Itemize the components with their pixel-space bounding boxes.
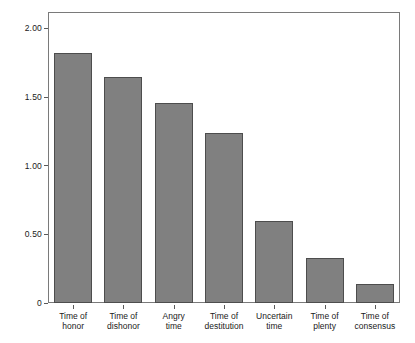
y-axis-tick: 1.00 [25, 160, 48, 172]
y-axis-tick-label: 1.00 [25, 160, 42, 172]
bar-chart: 00.501.001.502.00 Time of honorTime of d… [0, 0, 415, 343]
y-axis: 00.501.001.502.00 [0, 0, 48, 343]
x-axis-tick-label: Time of dishonor [98, 311, 148, 331]
y-axis-tick: 2.00 [25, 22, 48, 34]
x-axis-tick-label: Angry time [149, 311, 199, 331]
x-axis-tick-mark [375, 305, 376, 309]
y-axis-tick: 1.50 [25, 91, 48, 103]
x-axis-tick-label: Uncertain time [249, 311, 299, 331]
x-axis-tick-mark [325, 305, 326, 309]
x-axis-tick-mark [224, 305, 225, 309]
y-axis-tick: 0.50 [25, 228, 48, 240]
x-axis-tick-label: Time of honor [48, 311, 98, 331]
x-axis-tick-mark [274, 305, 275, 309]
bars-layer [48, 12, 400, 303]
bar [104, 77, 142, 303]
bar [54, 53, 92, 303]
x-axis-tick-label: Time of plenty [299, 311, 349, 331]
bar [306, 258, 344, 303]
y-axis-tick-label: 0 [37, 297, 42, 309]
bar [356, 284, 394, 303]
bar [255, 221, 293, 303]
y-axis-tick: 0 [37, 297, 48, 309]
y-axis-tick-label: 2.00 [25, 22, 42, 34]
x-axis-tick-mark [123, 305, 124, 309]
x-axis-tick-label: Time of destitution [199, 311, 249, 331]
x-axis-tick-mark [73, 305, 74, 309]
bar [155, 103, 193, 303]
bar [205, 133, 243, 303]
y-axis-tick-label: 1.50 [25, 91, 42, 103]
y-axis-tick-label: 0.50 [25, 228, 42, 240]
x-axis: Time of honorTime of dishonorAngry timeT… [48, 305, 400, 343]
x-axis-tick-mark [174, 305, 175, 309]
x-axis-tick-label: Time of consensus [350, 311, 400, 331]
